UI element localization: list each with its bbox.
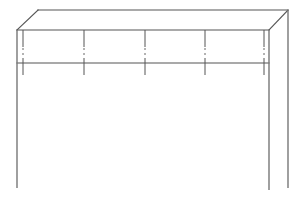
apron-dividers — [23, 30, 264, 75]
legs — [17, 10, 288, 190]
tabletop — [17, 10, 288, 30]
top-right-diagonal — [269, 10, 288, 30]
table-illustration — [0, 0, 302, 197]
table-drawing — [0, 0, 302, 197]
top-left-diagonal — [17, 10, 38, 30]
